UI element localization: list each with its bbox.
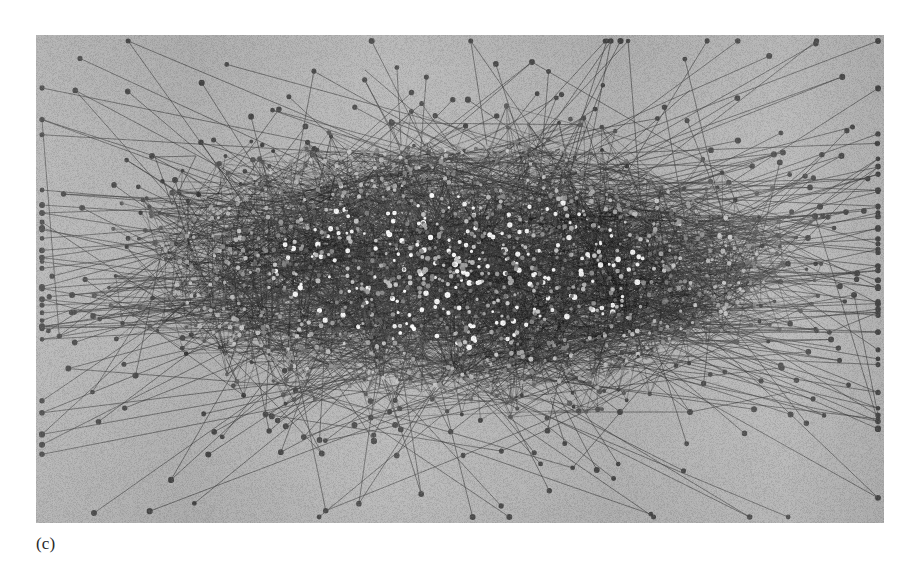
figure-caption: (c)	[36, 535, 55, 552]
figure-root: (c)	[0, 0, 910, 569]
figure-plate	[36, 35, 884, 523]
network-graph	[36, 35, 884, 523]
